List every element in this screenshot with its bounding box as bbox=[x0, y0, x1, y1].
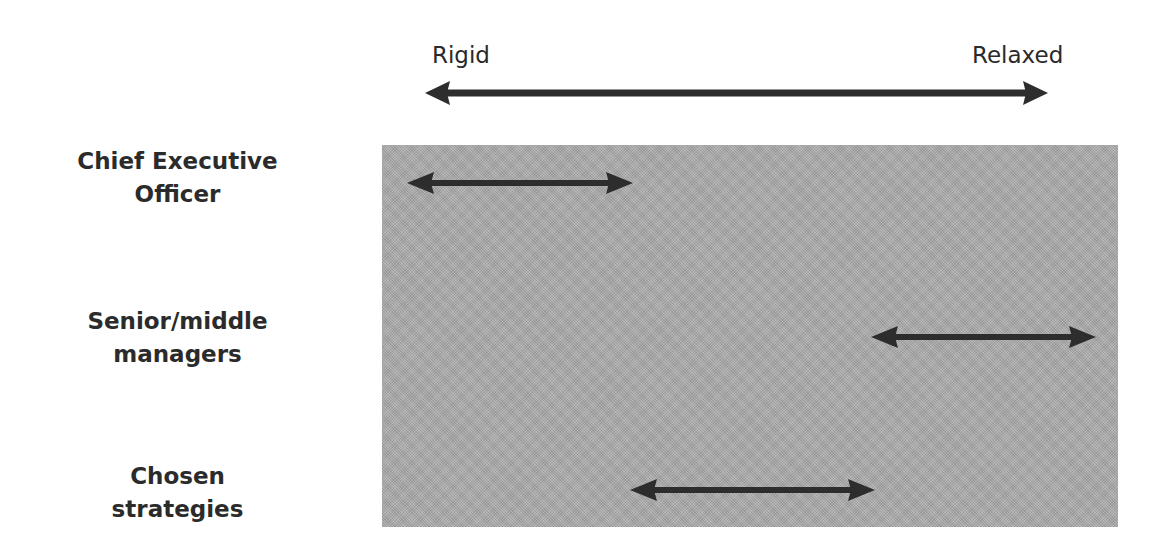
scale-double-arrow-icon bbox=[425, 81, 1048, 105]
managers-range-double-arrow-icon bbox=[871, 326, 1096, 348]
arrows-layer bbox=[0, 0, 1172, 554]
ceo-range-double-arrow-icon bbox=[407, 172, 633, 194]
strategies-range-double-arrow-icon bbox=[630, 479, 875, 501]
